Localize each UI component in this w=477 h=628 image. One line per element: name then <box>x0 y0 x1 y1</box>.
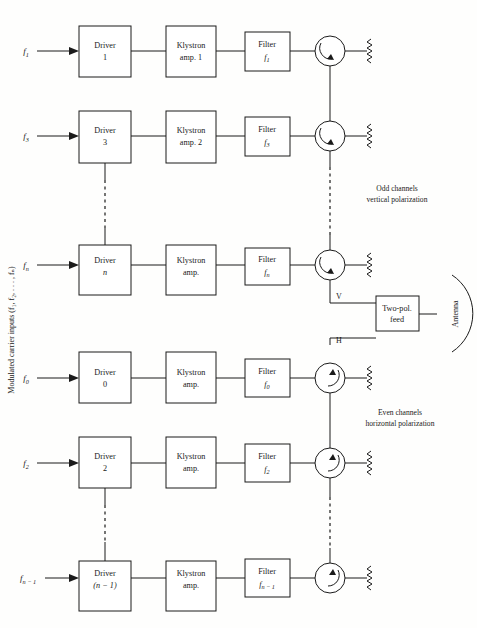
driver-label-line1-ch2: Driver <box>94 452 116 461</box>
input-arrow-chn1 <box>69 574 79 582</box>
input-label-chn1: fn − 1 <box>20 573 36 585</box>
chain-ch0: Driver 0 Klystron amp. Filter f0 <box>37 352 372 448</box>
klystron-label-line2-ch0: amp. <box>183 380 199 389</box>
circulator-ch1[interactable] <box>315 36 345 66</box>
filter-box-chn[interactable] <box>245 248 290 285</box>
two-pol-feed-label-line2: feed <box>390 315 404 324</box>
filter-box-chn1[interactable] <box>245 559 290 597</box>
input-label-ch1: f1 <box>23 46 29 58</box>
input-arrow-ch3 <box>69 132 79 140</box>
input-label-ch3: f3 <box>23 131 29 143</box>
filter-label-line1-ch3: Filter <box>258 125 276 134</box>
even-channels-note-line2: horizontal polarization <box>366 419 435 428</box>
filter-box-ch2[interactable] <box>245 444 290 482</box>
klystron-box-ch0[interactable] <box>166 352 216 403</box>
h-port-label: H <box>336 336 342 345</box>
filter-label-line1-chn1: Filter <box>258 567 276 576</box>
filter-label-line1-chn: Filter <box>258 255 276 264</box>
filter-box-ch3[interactable] <box>245 117 290 156</box>
input-arrow-ch0 <box>69 374 79 382</box>
input-label-ch2: f2 <box>23 458 29 470</box>
filter-box-ch1[interactable] <box>245 32 290 71</box>
circulator-ch2[interactable] <box>315 448 345 478</box>
klystron-label-line2-ch1: amp. 1 <box>180 53 202 62</box>
chain-ch3: Driver 3 Klystron amp. 2 Filter f3 <box>37 111 372 250</box>
klystron-label-line1-ch2: Klystron <box>177 452 206 461</box>
driver-label-line2-chn1: (n − 1) <box>93 581 117 590</box>
input-arrow-ch1 <box>69 47 79 55</box>
driver-box-ch1[interactable] <box>79 26 131 77</box>
filter-label-line1-ch0: Filter <box>258 367 276 376</box>
circulator-chn1[interactable] <box>315 563 345 593</box>
driver-label-line2-chn: n <box>103 268 107 277</box>
circulator-ch0[interactable] <box>315 363 345 393</box>
driver-label-line1-chn1: Driver <box>94 569 116 578</box>
matched-load-icon-ch0 <box>367 366 372 390</box>
two-pol-feed-label-line1: Two-pol. <box>382 304 412 313</box>
v-port-label: V <box>336 292 342 301</box>
antenna-subsystem: V H Two-pol. feed Antenna <box>330 275 473 352</box>
chain-chn1: Driver (n − 1) Klystron amp. Filter fn −… <box>45 559 372 611</box>
odd-channels-note-line1: Odd channels <box>376 184 418 193</box>
klystron-label-line1-chn1: Klystron <box>177 569 206 578</box>
klystron-label-line2-ch2: amp. <box>183 464 199 473</box>
driver-box-ch0[interactable] <box>79 352 131 403</box>
matched-load-icon-ch3 <box>367 124 372 148</box>
klystron-label-line2-chn1: amp. <box>183 581 199 590</box>
block-diagram-svg: Driver 1 Klystron amp. 1 Filter f1 Drive… <box>0 0 477 628</box>
driver-label-line2-ch0: 0 <box>103 380 107 389</box>
input-label-chn: fn <box>23 260 29 272</box>
klystron-label-line1-ch1: Klystron <box>177 41 206 50</box>
filter-label-line1-ch1: Filter <box>258 40 276 49</box>
two-pol-feed-box[interactable] <box>376 296 419 331</box>
input-arrow-chn <box>69 261 79 269</box>
driver-label-line2-ch2: 2 <box>103 464 107 473</box>
figure-canvas: Driver 1 Klystron amp. 1 Filter f1 Drive… <box>0 0 477 628</box>
klystron-label-line1-ch0: Klystron <box>177 368 206 377</box>
circulator-chn[interactable] <box>315 250 345 280</box>
input-arrow-ch2 <box>69 459 79 467</box>
matched-load-icon-ch2 <box>367 451 372 475</box>
chain-chn: Driver n Klystron amp. Filter fn <box>37 245 376 303</box>
driver-label-line1-chn: Driver <box>94 256 116 265</box>
klystron-label-line2-chn: amp. <box>183 268 199 277</box>
driver-box-ch2[interactable] <box>79 437 131 488</box>
matched-load-icon-chn <box>367 253 372 277</box>
klystron-label-line1-ch3: Klystron <box>177 126 206 135</box>
chain-ch2: Driver 2 Klystron amp. Filter f2 <box>37 437 372 563</box>
matched-load-icon-chn1 <box>367 566 372 590</box>
driver-box-ch3[interactable] <box>79 111 131 163</box>
even-channels-note-line1: Even channels <box>378 408 422 417</box>
driver-label-line1-ch1: Driver <box>94 41 116 50</box>
circulator-ch3[interactable] <box>315 121 345 151</box>
klystron-box-ch2[interactable] <box>166 437 216 488</box>
klystron-box-ch1[interactable] <box>166 26 216 77</box>
matched-load-icon-ch1 <box>367 39 372 63</box>
antenna-label: Antenna <box>451 300 460 328</box>
klystron-label-line2-ch3: amp. 2 <box>180 138 202 147</box>
odd-channels-note-line2: vertical polarization <box>367 195 428 204</box>
modulated-carrier-inputs-label: Modulated carrier inputs (f₁, f₂, . . . … <box>7 266 16 394</box>
driver-label-line1-ch0: Driver <box>94 368 116 377</box>
input-label-ch0: f0 <box>23 373 30 385</box>
klystron-box-ch3[interactable] <box>166 111 216 163</box>
filter-label-line1-ch2: Filter <box>258 452 276 461</box>
driver-label-line1-ch3: Driver <box>94 126 116 135</box>
driver-label-line2-ch3: 3 <box>103 138 107 147</box>
filter-box-ch0[interactable] <box>245 359 290 397</box>
driver-label-line2-ch1: 1 <box>103 53 107 62</box>
klystron-label-line1-chn: Klystron <box>177 256 206 265</box>
